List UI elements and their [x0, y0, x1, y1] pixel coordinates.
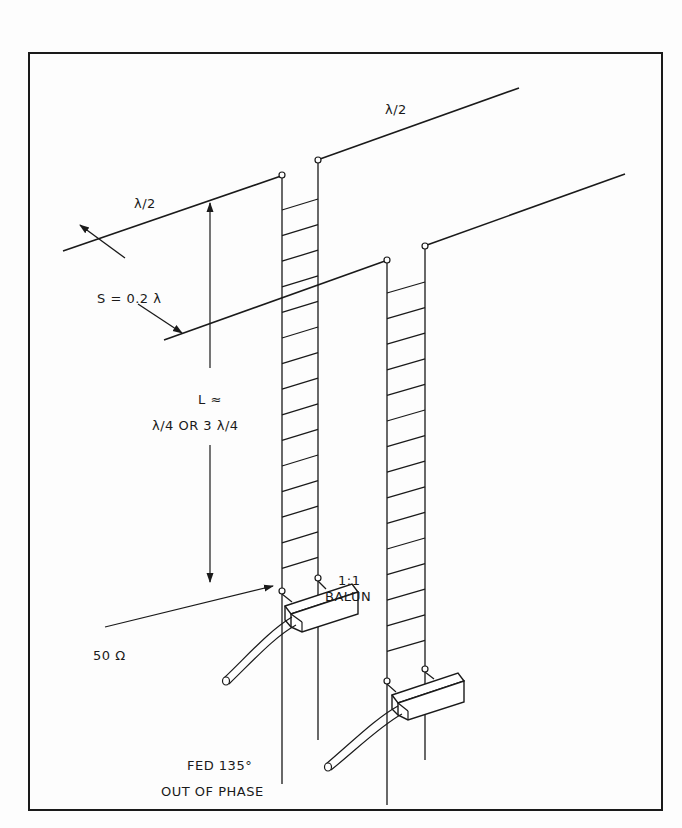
ladder-rung: [282, 532, 318, 543]
ladder-rung: [387, 615, 425, 626]
antenna-array-diagram: λ/2 λ/2 S = 0.2 λ L ≈ λ/4 OR 3 λ/4 1:1 B…: [0, 0, 682, 828]
impedance-label: 50 Ω: [93, 648, 126, 663]
ladder-rung: [282, 506, 318, 517]
feed-point-terminal: [422, 243, 428, 249]
top-dipole-length-label: λ/2: [385, 102, 407, 117]
feed-note-line1: FED 135°: [187, 758, 252, 773]
ladder-rung: [282, 276, 318, 287]
rear-dipole-right-element: [427, 174, 625, 245]
spacing-dimension: [80, 225, 182, 333]
diagram-frame: [29, 53, 662, 810]
feed-point-terminal: [315, 157, 321, 163]
ladder-line-rear: [387, 249, 425, 805]
feed-point-terminal: [279, 172, 285, 178]
ladder-rung: [282, 404, 318, 415]
ladder-rung: [282, 199, 318, 210]
feed-note-line2: OUT OF PHASE: [161, 784, 264, 799]
ladder-rung: [282, 455, 318, 466]
ladder-rung: [282, 301, 318, 312]
ladder-rung: [282, 225, 318, 236]
ladder-rung: [282, 378, 318, 389]
ladder-rung: [387, 384, 425, 395]
ladder-rung: [282, 353, 318, 364]
ladder-rung: [282, 327, 318, 338]
ladder-rung: [282, 557, 318, 568]
ladder-rung: [387, 640, 425, 651]
ladder-line-front: [282, 163, 318, 784]
ladder-rung: [387, 487, 425, 498]
feed-point-terminal: [384, 257, 390, 263]
left-dipole-length-label: λ/2: [134, 196, 156, 211]
ladder-rung: [282, 481, 318, 492]
ladder-rung: [387, 308, 425, 319]
front-dipole: [63, 88, 519, 251]
rear-dipole-left-element: [164, 261, 385, 340]
ladder-rung: [282, 250, 318, 261]
ladder-rung: [387, 512, 425, 523]
ladder-rung: [387, 282, 425, 293]
balun-label: BALUN: [325, 589, 371, 604]
front-dipole-right-element: [320, 88, 519, 159]
ladder-rung: [387, 461, 425, 472]
spacing-label: S = 0.2 λ: [97, 291, 161, 306]
feed-length-label-line2: λ/4 OR 3 λ/4: [152, 418, 239, 433]
ladder-rung: [387, 564, 425, 575]
ladder-rung: [282, 429, 318, 440]
ladder-rung: [387, 359, 425, 370]
impedance-pointer: [105, 586, 273, 627]
ladder-rung: [387, 538, 425, 549]
feed-length-label-line1: L ≈: [198, 392, 222, 407]
balun-rear: [325, 666, 465, 771]
balun-ratio-label: 1:1: [338, 573, 360, 588]
ladder-rung: [387, 436, 425, 447]
front-dipole-left-element: [63, 176, 281, 251]
ladder-rung: [387, 410, 425, 421]
ladder-rung: [387, 589, 425, 600]
rear-dipole: [164, 174, 625, 340]
ladder-rung: [387, 333, 425, 344]
